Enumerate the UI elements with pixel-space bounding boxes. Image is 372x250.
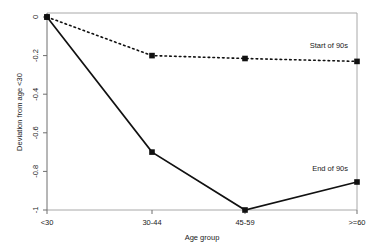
chart-figure: 0 -0.2 -0.4 -0.6 -0.8 -1 Deviation from … [0, 0, 372, 250]
data-point-marker [354, 179, 360, 185]
y-axis-title: Deviation from age <30 [15, 73, 24, 151]
x-tick-label-0: <30 [41, 218, 54, 227]
annotation-end-of-90s: End of 90s [312, 164, 348, 173]
x-tick-label-1: 30-44 [142, 218, 161, 227]
annotation-start-of-90s: Start of 90s [310, 41, 349, 50]
x-tick-label-2: 45-59 [235, 218, 254, 227]
y-tick-label-4: -0.8 [31, 165, 40, 178]
y-tick-label-5: -1 [31, 207, 40, 214]
y-axis-ticks [43, 17, 47, 210]
data-point-marker [354, 59, 360, 65]
data-point-marker [242, 56, 248, 62]
y-tick-label-1: -0.2 [31, 49, 40, 62]
y-tick-label-0: 0 [31, 15, 40, 19]
y-tick-label-3: -0.6 [31, 126, 40, 139]
series-start-of-90s [44, 14, 360, 64]
line-chart: 0 -0.2 -0.4 -0.6 -0.8 -1 Deviation from … [0, 0, 372, 250]
data-point-marker [242, 207, 248, 213]
x-axis-ticks [47, 210, 357, 214]
y-tick-label-2: -0.4 [31, 88, 40, 101]
data-point-marker [149, 53, 155, 59]
data-point-marker [44, 14, 50, 20]
x-tick-label-3: >=60 [348, 218, 365, 227]
data-point-marker [149, 149, 155, 155]
x-axis-title: Age group [185, 233, 220, 242]
